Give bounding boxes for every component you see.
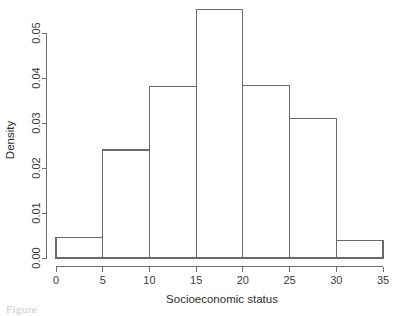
density-histogram-plot: 0.000.010.020.030.040.05 05101520253035 … <box>0 0 398 316</box>
y-axis-tick-label: 0.01 <box>30 202 42 223</box>
x-axis-tick-label: 0 <box>53 274 59 286</box>
y-axis-tick-label: 0.02 <box>30 157 42 178</box>
x-axis-tick-label: 10 <box>143 274 155 286</box>
x-axis-tick-label: 15 <box>190 274 202 286</box>
bars-group <box>56 9 383 258</box>
y-axis: 0.000.010.020.030.040.05 <box>30 22 46 268</box>
histogram-bar <box>290 118 337 258</box>
figure-caption-fragment: Figure <box>6 303 126 315</box>
histogram-bar <box>196 9 243 258</box>
x-axis-title: Socioeconomic status <box>166 293 278 305</box>
x-axis-tick-label: 20 <box>237 274 249 286</box>
x-axis-tick-label: 5 <box>100 274 106 286</box>
histogram-bar <box>243 85 290 258</box>
x-axis-tick-label: 25 <box>283 274 295 286</box>
y-axis-tick-label: 0.00 <box>30 247 42 268</box>
histogram-bar <box>336 241 383 258</box>
y-axis-tick-label: 0.03 <box>30 112 42 133</box>
y-axis-title: Density <box>4 121 16 160</box>
y-axis-tick-label: 0.04 <box>30 67 42 88</box>
histogram-bar <box>56 238 103 258</box>
x-axis-tick-label: 35 <box>377 274 389 286</box>
x-axis: 05101520253035 <box>53 267 389 286</box>
histogram-bar <box>149 87 196 258</box>
histogram-figure: 0.000.010.020.030.040.05 05101520253035 … <box>0 0 398 316</box>
histogram-bar <box>103 150 150 258</box>
y-axis-tick-label: 0.05 <box>30 22 42 43</box>
x-axis-tick-label: 30 <box>330 274 342 286</box>
